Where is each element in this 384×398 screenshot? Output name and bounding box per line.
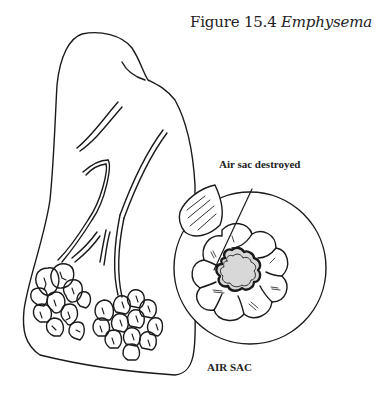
label-air-sac-destroyed: Air sac destroyed [219, 158, 300, 170]
emphysema-illustration [0, 0, 384, 398]
alveolar-cluster-left [31, 264, 91, 340]
alveolar-cluster-right [93, 290, 162, 360]
lung-fissure [122, 62, 145, 80]
label-air-sac: AIR SAC [207, 361, 252, 373]
